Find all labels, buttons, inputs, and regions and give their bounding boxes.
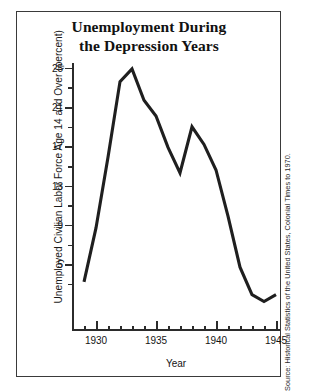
y-tick-label: 5	[29, 259, 63, 270]
y-tick-major	[65, 225, 72, 227]
y-tick-major	[65, 107, 72, 109]
x-axis-title: Year	[72, 358, 280, 369]
y-tick-major	[65, 264, 72, 266]
unemployment-line-series	[72, 60, 280, 331]
x-tick-label: 1930	[76, 335, 116, 346]
y-tick-major	[65, 186, 72, 188]
chart-title: Unemployment During the Depression Years	[30, 17, 268, 55]
chart-title-line-1: Unemployment During	[30, 17, 268, 36]
y-tick-label: 17	[29, 141, 63, 152]
unemployment-polyline	[84, 69, 276, 302]
y-tick-label: 13	[29, 180, 63, 191]
source-note: Source: Historical Statistics of the Uni…	[283, 116, 292, 391]
plot-area: 5913172125 1930193519401945	[72, 60, 280, 331]
y-tick-major	[65, 68, 72, 70]
x-tick-label: 1940	[196, 335, 236, 346]
y-tick-major	[65, 146, 72, 148]
y-tick-label: 25	[29, 62, 63, 73]
x-tick-label: 1945	[256, 335, 296, 346]
y-tick-label: 9	[29, 219, 63, 230]
x-tick-label: 1935	[136, 335, 176, 346]
y-tick-label: 21	[29, 102, 63, 113]
chart-title-line-2: the Depression Years	[30, 36, 268, 55]
